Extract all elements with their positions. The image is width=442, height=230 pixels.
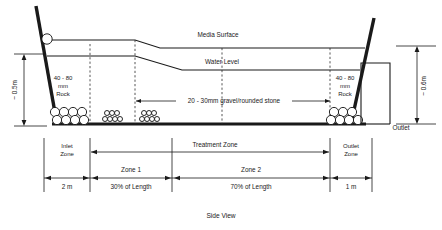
media-surface-label: Media Surface xyxy=(197,31,239,38)
inlet-length-label: 2 m xyxy=(62,183,73,190)
inlet-dim-arrow-left xyxy=(45,176,51,181)
right-depth-arrow-up xyxy=(415,46,420,52)
right-rock-pile xyxy=(326,107,362,124)
rock-right-label-line2: mm xyxy=(340,83,350,89)
left-depth-arrow-up xyxy=(22,54,27,60)
outlet-dim-arrow-right xyxy=(365,176,371,181)
water-level-line xyxy=(47,56,360,70)
gravel-label: 20 - 30mm gravel/rounded stone xyxy=(188,97,281,105)
left-rock-label-group: 40 - 80 mm Rock xyxy=(54,75,73,97)
zone2-dim-arrow-right xyxy=(323,176,329,181)
rock-right-label-line3: Rock xyxy=(338,91,353,97)
zone1-dim-arrow-right xyxy=(165,176,171,181)
side-view-diagram: Media Surface Water Level 40 - 80 mm Roc… xyxy=(0,0,442,230)
zone-name-row: Inlet Zone Treatment Zone Outlet Zone xyxy=(60,140,359,157)
mid-gravel-cluster xyxy=(140,111,160,122)
right-depth-dimension: ~ 0.6m xyxy=(396,46,436,124)
length-dimension-row: 2 m 30% of Length 70% of Length 1 m xyxy=(44,176,372,191)
zone-divider-dashed-lines xyxy=(90,40,330,124)
basin-structure xyxy=(36,6,374,124)
inlet-zone-label-line1: Inlet xyxy=(61,143,73,149)
media-surface-group: Media Surface xyxy=(44,31,365,48)
zone2-dim-arrow-left xyxy=(174,176,180,181)
zone2-length-label: 70% of Length xyxy=(230,183,272,191)
inlet-pipe-icon xyxy=(42,34,52,44)
zone1-dim-arrow-left xyxy=(92,176,98,181)
outlet-label: Outlet xyxy=(392,124,409,131)
outlet-riser-box xyxy=(361,63,390,124)
treatment-arrow-right xyxy=(323,150,329,155)
rock-left-label-line1: 40 - 80 xyxy=(54,75,73,81)
outlet-zone-label-line2: Zone xyxy=(344,151,358,157)
outlet-dim-arrow-left xyxy=(332,176,338,181)
treatment-arrow-left xyxy=(91,150,97,155)
left-rock-pile xyxy=(50,107,88,124)
rock-left-label-line3: Rock xyxy=(56,91,71,97)
right-depth-label: ~ 0.6m xyxy=(420,76,427,96)
gravel-callout-group: 20 - 30mm gravel/rounded stone xyxy=(136,97,330,105)
treatment-zone-label: Treatment Zone xyxy=(192,141,238,148)
rock-left-label-line2: mm xyxy=(58,83,68,89)
left-depth-label: ~ 0.5m xyxy=(11,80,18,100)
gravel-arrow-right xyxy=(325,99,330,103)
zone1-length-label: 30% of Length xyxy=(110,183,152,191)
left-wall xyxy=(36,6,57,124)
media-surface-line xyxy=(44,40,365,48)
left-depth-dimension: ~ 0.5m xyxy=(11,54,47,126)
right-depth-arrow-down xyxy=(415,118,420,124)
inlet-dim-arrow-right xyxy=(83,176,89,181)
gravel-arrow-left xyxy=(136,99,141,103)
center-gravel-cluster xyxy=(103,111,123,122)
zone1-label: Zone 1 xyxy=(121,166,141,173)
inlet-zone-label-line2: Zone xyxy=(60,151,74,157)
rock-right-label-line1: 40 - 80 xyxy=(336,75,355,81)
outlet-zone-label-line1: Outlet xyxy=(343,143,359,149)
outlet-length-label: 1 m xyxy=(346,183,357,190)
left-depth-arrow-down xyxy=(22,120,27,126)
zone-subdivision-row: Zone 1 Zone 2 xyxy=(121,166,261,173)
water-level-group: Water Level xyxy=(47,56,360,70)
outlet-structure: Outlet xyxy=(361,63,410,131)
right-rock-label-group: 40 - 80 mm Rock xyxy=(336,75,355,97)
zone2-label: Zone 2 xyxy=(241,166,261,173)
figure-caption: Side View xyxy=(206,212,235,219)
